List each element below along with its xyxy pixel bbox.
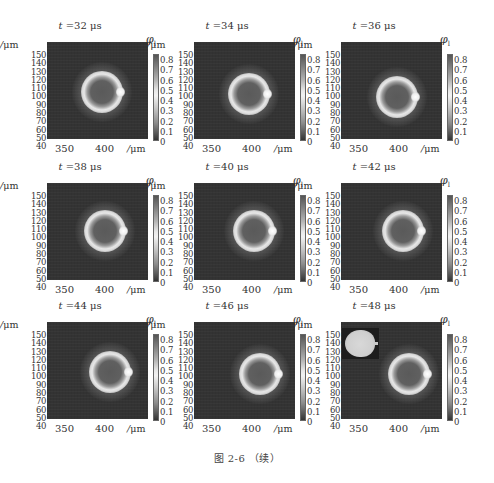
x-tick: 350 bbox=[55, 423, 74, 434]
heatmap-panel-6: t =42 μs /μm 150140130120110100908070605… bbox=[294, 161, 454, 301]
time-value: =42 μs bbox=[360, 161, 396, 172]
time-symbol: t bbox=[352, 20, 359, 31]
colorbar-ticks: 0.80.70.60.50.40.30.20.10 bbox=[454, 55, 468, 148]
time-symbol: t bbox=[352, 300, 359, 311]
y-axis-unit: /μm bbox=[147, 180, 165, 191]
time-value: =46 μs bbox=[213, 300, 249, 311]
time-value: =38 μs bbox=[66, 161, 102, 172]
x-tick: 400 bbox=[389, 143, 408, 154]
heatmap-plot-area bbox=[341, 322, 442, 419]
panel-title: t =46 μs bbox=[147, 300, 307, 311]
time-symbol: t bbox=[58, 161, 65, 172]
colorbar-subscript: l bbox=[448, 320, 450, 328]
droplet-tip bbox=[119, 226, 128, 236]
time-symbol: t bbox=[352, 161, 359, 172]
colorbar-symbol: φ bbox=[440, 33, 448, 46]
colorbar-tick: 0.8 bbox=[454, 55, 468, 65]
x-axis-unit: /μm bbox=[421, 143, 439, 154]
y-axis-unit: /μm bbox=[294, 319, 312, 330]
heatmap-plot-area bbox=[194, 42, 295, 139]
inset-droplet bbox=[345, 330, 375, 357]
panel-title: t =38 μs bbox=[0, 161, 160, 172]
time-symbol: t bbox=[205, 300, 212, 311]
colorbar-tick: 0.5 bbox=[454, 227, 468, 237]
colorbar-label: φl bbox=[440, 33, 450, 48]
panel-title: t =36 μs bbox=[294, 20, 454, 31]
time-value: =48 μs bbox=[360, 300, 396, 311]
x-tick: 400 bbox=[242, 143, 261, 154]
time-value: =36 μs bbox=[360, 20, 396, 31]
colorbar-subscript: l bbox=[448, 181, 450, 189]
y-axis-ticks: 150140130120110100908070605040 bbox=[321, 51, 340, 151]
x-tick: 400 bbox=[389, 423, 408, 434]
x-tick: 400 bbox=[95, 143, 114, 154]
droplet-tip bbox=[263, 89, 272, 99]
droplet-shape-inset bbox=[342, 328, 379, 359]
heatmap-panel-8: t =46 μs /μm 150140130120110100908070605… bbox=[147, 300, 307, 440]
y-axis-ticks: 150140130120110100908070605040 bbox=[174, 51, 193, 151]
colorbar-label: φl bbox=[440, 313, 450, 328]
x-axis-unit: /μm bbox=[421, 423, 439, 434]
colorbar-tick: 0.6 bbox=[454, 76, 468, 86]
colorbar-tick: 0.5 bbox=[454, 366, 468, 376]
panel-title: t =42 μs bbox=[294, 161, 454, 172]
colorbar-tick: 0 bbox=[454, 417, 468, 427]
heatmap-panel-3: t =36 μs /μm 150140130120110100908070605… bbox=[294, 20, 454, 160]
panel-title: t =34 μs bbox=[147, 20, 307, 31]
y-axis-ticks: 150140130120110100908070605040 bbox=[27, 51, 46, 151]
heatmap-plot-area bbox=[47, 322, 148, 419]
colorbar-tick: 0.8 bbox=[454, 335, 468, 345]
heatmap-panel-4: t =38 μs /μm 150140130120110100908070605… bbox=[0, 161, 160, 301]
x-axis-unit: /μm bbox=[127, 143, 145, 154]
droplet-tip bbox=[411, 92, 420, 102]
x-axis-unit: /μm bbox=[274, 284, 292, 295]
time-value: =40 μs bbox=[213, 161, 249, 172]
y-axis-unit: /μm bbox=[147, 39, 165, 50]
heatmap-panel-9: t =48 μs /μm 150140130120110100908070605… bbox=[294, 300, 454, 440]
colorbar-tick: 0.4 bbox=[454, 96, 468, 106]
colorbar-tick: 0.1 bbox=[454, 127, 468, 137]
colorbar-tick: 0.1 bbox=[454, 268, 468, 278]
colorbar-tick: 0.2 bbox=[454, 117, 468, 127]
x-tick: 400 bbox=[242, 423, 261, 434]
colorbar-tick: 0.7 bbox=[454, 345, 468, 355]
inset-droplet-tip bbox=[374, 342, 378, 345]
droplet-tip bbox=[116, 87, 125, 97]
colorbar bbox=[447, 54, 453, 141]
y-axis-unit: /μm bbox=[0, 180, 18, 191]
colorbar-subscript: l bbox=[448, 40, 450, 48]
x-axis-unit: /μm bbox=[274, 423, 292, 434]
y-axis-unit: /μm bbox=[147, 319, 165, 330]
time-symbol: t bbox=[58, 20, 65, 31]
panel-title: t =40 μs bbox=[147, 161, 307, 172]
time-symbol: t bbox=[205, 20, 212, 31]
heatmap-plot-area bbox=[47, 42, 148, 139]
colorbar bbox=[447, 334, 453, 421]
x-tick: 350 bbox=[349, 423, 368, 434]
y-axis-ticks: 150140130120110100908070605040 bbox=[321, 192, 340, 292]
x-tick: 350 bbox=[202, 143, 221, 154]
colorbar-tick: 0.4 bbox=[454, 376, 468, 386]
heatmap-plot-area bbox=[341, 42, 442, 139]
x-tick: 400 bbox=[389, 284, 408, 295]
heatmap-plot-area bbox=[194, 183, 295, 280]
colorbar-tick: 0.7 bbox=[454, 206, 468, 216]
droplet-tip bbox=[274, 369, 283, 379]
colorbar-symbol: φ bbox=[440, 313, 448, 326]
colorbar-tick: 0.3 bbox=[454, 247, 468, 257]
heatmap-panel-7: t =44 μs /μm 150140130120110100908070605… bbox=[0, 300, 160, 440]
colorbar-tick: 0.2 bbox=[454, 397, 468, 407]
y-tick: 40 bbox=[321, 142, 340, 150]
colorbar-tick: 0.4 bbox=[454, 237, 468, 247]
droplet-tip bbox=[124, 367, 133, 377]
heatmap-panel-2: t =34 μs /μm 150140130120110100908070605… bbox=[147, 20, 307, 160]
x-tick: 400 bbox=[242, 284, 261, 295]
droplet-tip bbox=[417, 226, 426, 236]
x-tick: 350 bbox=[202, 284, 221, 295]
time-symbol: t bbox=[205, 161, 212, 172]
x-tick: 400 bbox=[95, 423, 114, 434]
time-value: =32 μs bbox=[66, 20, 102, 31]
y-tick: 40 bbox=[321, 422, 340, 430]
y-axis-ticks: 150140130120110100908070605040 bbox=[27, 331, 46, 431]
panel-title: t =44 μs bbox=[0, 300, 160, 311]
